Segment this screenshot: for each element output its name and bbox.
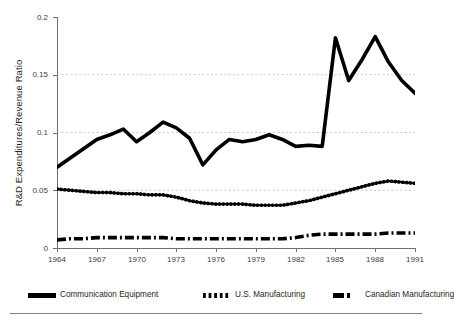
series-canvas: [57, 17, 415, 248]
series-line-dashdot: [57, 233, 415, 240]
y-tick-label: 0.15: [22, 70, 48, 79]
y-tick-label: 0: [22, 244, 48, 253]
x-tick-mark: [256, 248, 257, 252]
x-tick-mark: [296, 248, 297, 252]
legend-swatch-solid-icon: [28, 293, 56, 298]
legend-label: Communication Equipment: [60, 290, 158, 300]
x-tick-label: 1964: [42, 255, 72, 264]
x-tick-mark: [176, 248, 177, 252]
legend-swatch-dotted-icon: [203, 293, 231, 298]
x-tick-label: 1991: [400, 255, 430, 264]
x-tick-label: 1973: [161, 255, 191, 264]
x-tick-label: 1967: [82, 255, 112, 264]
x-tick-label: 1988: [360, 255, 390, 264]
series-line-solid: [57, 37, 415, 168]
data-series-group: [57, 37, 415, 240]
chart-legend: Communication EquipmentU.S. Manufacturin…: [28, 288, 418, 304]
legend-label: Canadian Manufacturing: [365, 290, 454, 300]
x-axis-line: [57, 248, 415, 249]
x-tick-mark: [415, 248, 416, 252]
legend-swatch-dashdot-icon: [333, 293, 361, 298]
legend-item[interactable]: Communication Equipment: [28, 288, 158, 302]
legend-label: U.S. Manufacturing: [235, 290, 305, 300]
x-tick-mark: [216, 248, 217, 252]
x-tick-label: 1985: [320, 255, 350, 264]
series-line-dotted: [57, 181, 415, 205]
y-tick-label: 0.1: [22, 128, 48, 137]
y-tick-label: 0.05: [22, 186, 48, 195]
x-tick-mark: [375, 248, 376, 252]
gridlines: [57, 75, 415, 191]
x-tick-label: 1979: [241, 255, 271, 264]
x-tick-mark: [335, 248, 336, 252]
legend-item[interactable]: Canadian Manufacturing: [333, 288, 454, 302]
bottom-divider: [10, 313, 422, 314]
legend-item[interactable]: U.S. Manufacturing: [203, 288, 305, 302]
x-tick-mark: [57, 248, 58, 252]
x-tick-mark: [97, 248, 98, 252]
x-tick-mark: [137, 248, 138, 252]
x-tick-label: 1976: [201, 255, 231, 264]
x-tick-label: 1982: [281, 255, 311, 264]
plot-area: [57, 17, 415, 248]
y-tick-label: 0.2: [22, 13, 48, 22]
x-tick-label: 1970: [122, 255, 152, 264]
